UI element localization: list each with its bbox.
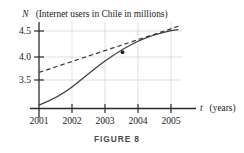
y-axis-title-variable: N xyxy=(21,9,29,19)
figure-container: N (Internet users in Chile in millions) … xyxy=(0,0,244,153)
xtick-label-2003: 2003 xyxy=(95,115,114,126)
x-axis-title-variable: t xyxy=(200,103,203,113)
ytick-label-4.5: 4.5 xyxy=(19,25,31,36)
series-dashed-tangent xyxy=(39,26,180,73)
tangency-point-marker xyxy=(121,50,125,54)
series-solid-curve xyxy=(39,30,178,106)
grid-horizontal xyxy=(39,31,182,80)
chart-svg: N (Internet users in Chile in millions) … xyxy=(0,0,244,153)
x-axis-title: t (years) xyxy=(200,97,236,114)
ytick-label-4.0: 4.0 xyxy=(19,51,31,62)
xtick-label-2002: 2002 xyxy=(62,115,81,126)
y-axis-title-description: (Internet users in Chile in millions) xyxy=(36,9,168,20)
xtick-label-2001: 2001 xyxy=(29,115,48,126)
ytick-label-3.5: 3.5 xyxy=(19,74,31,85)
y-axis-title: N (Internet users in Chile in millions) xyxy=(21,3,167,20)
figure-caption: FIGURE 8 xyxy=(94,134,140,144)
x-axis-title-description: (years) xyxy=(210,103,236,114)
xtick-label-2004: 2004 xyxy=(128,115,147,126)
xtick-label-2005: 2005 xyxy=(161,115,180,126)
